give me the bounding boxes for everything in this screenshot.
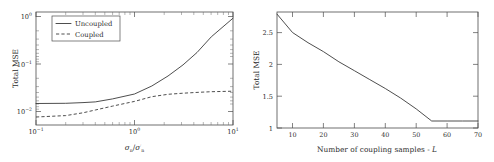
right-xtick-30: 30: [350, 131, 358, 139]
right-xtick-10: 10: [288, 131, 296, 139]
right-x-ticks: [293, 12, 479, 128]
right-y-tick-labels: 1 1.5 2 2.5: [263, 29, 274, 132]
right-x-axis-label: Number of coupling samples - L: [317, 145, 437, 154]
right-curve-total-mse: [277, 14, 478, 121]
legend-label-uncoupled: Uncoupled: [75, 20, 113, 28]
left-x-axis-label: σn/σ′n: [125, 143, 145, 153]
right-ytick-1: 1: [269, 125, 273, 133]
left-chart-svg: 100 10−1 10−2 10−1 100 101 Total MSE σn/…: [0, 0, 247, 162]
svg-text:100: 100: [21, 12, 32, 21]
svg-text:10−1: 10−1: [28, 127, 43, 136]
right-xtick-60: 60: [443, 131, 451, 139]
left-y-minor-ticks: [36, 31, 233, 109]
right-chart-svg: 1 1.5 2 2.5 10 20 30 40 50 60 70 Total M…: [247, 0, 494, 162]
svg-text:101: 101: [227, 127, 238, 136]
right-xtick-70: 70: [474, 131, 482, 139]
right-xtick-50: 50: [412, 131, 420, 139]
svg-text:10−2: 10−2: [17, 107, 32, 116]
right-xtick-20: 20: [319, 131, 327, 139]
right-ytick-2: 2: [269, 61, 273, 69]
right-ytick-1-5: 1.5: [263, 93, 274, 101]
right-ytick-2-5: 2.5: [263, 29, 274, 37]
right-xtick-40: 40: [381, 131, 389, 139]
left-y-axis-label: Total MSE: [11, 49, 20, 88]
right-y-axis-label: Total MSE: [252, 51, 261, 90]
right-y-ticks: [277, 33, 478, 128]
chart-panel-right: 1 1.5 2 2.5 10 20 30 40 50 60 70 Total M…: [247, 0, 494, 162]
left-legend: Uncoupled Coupled: [52, 16, 120, 41]
legend-label-coupled: Coupled: [75, 31, 104, 39]
right-plot-frame: [277, 12, 478, 128]
right-x-tick-labels: 10 20 30 40 50 60 70: [288, 131, 482, 139]
svg-text:100: 100: [129, 127, 140, 136]
left-curve-coupled: [36, 91, 233, 117]
chart-panel-left: 100 10−1 10−2 10−1 100 101 Total MSE σn/…: [0, 0, 247, 162]
left-x-tick-labels: 10−1 100 101: [28, 127, 238, 136]
figure-root: 100 10−1 10−2 10−1 100 101 Total MSE σn/…: [0, 0, 494, 162]
